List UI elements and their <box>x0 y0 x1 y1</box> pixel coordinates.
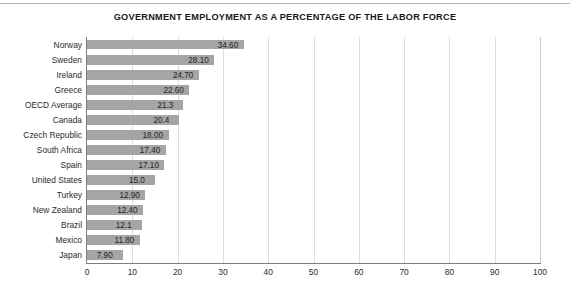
chart-page: GOVERNMENT EMPLOYMENT AS A PERCENTAGE OF… <box>0 0 570 291</box>
bar-value-label: 12.90 <box>119 191 140 200</box>
bar-row: Brazil12.1 <box>87 220 540 230</box>
bar-value-label: 18.00 <box>143 130 164 139</box>
x-tick-label: 20 <box>173 267 182 277</box>
bar-value-label: 17.10 <box>138 161 159 170</box>
bar-value-label: 15.0 <box>129 176 145 185</box>
bar-row: Norway34.60 <box>87 40 540 50</box>
chart-title: GOVERNMENT EMPLOYMENT AS A PERCENTAGE OF… <box>0 12 570 22</box>
bar-value-label: 22.60 <box>163 85 184 94</box>
category-label: Czech Republic <box>23 130 82 140</box>
bar-value-label: 11.80 <box>114 236 134 245</box>
category-label: Mexico <box>55 235 82 245</box>
plot-area: Norway34.60Sweden28.10Ireland24.70Greece… <box>87 37 540 263</box>
bar-row: United States15.0 <box>87 175 540 185</box>
gridline <box>540 37 541 263</box>
bar-value-label: 24.70 <box>173 70 194 79</box>
bar-row: Spain17.10 <box>87 160 540 170</box>
bar-row: Sweden28.10 <box>87 55 540 65</box>
category-label: Greece <box>55 85 82 95</box>
bar-value-label: 12.40 <box>117 206 138 215</box>
x-tick-label: 0 <box>85 267 90 277</box>
category-label: Canada <box>53 115 82 125</box>
bar-row: Canada20.4 <box>87 115 540 125</box>
bar-row: Japan7.90 <box>87 250 540 260</box>
category-label: Brazil <box>61 220 82 230</box>
x-tick-label: 10 <box>128 267 137 277</box>
x-tick-label: 60 <box>354 267 363 277</box>
category-label: Japan <box>59 250 82 260</box>
category-label: Spain <box>61 160 82 170</box>
bar-row: New Zealand12.40 <box>87 205 540 215</box>
x-tick-label: 50 <box>309 267 318 277</box>
bar-value-label: 7.90 <box>97 251 113 260</box>
category-label: Norway <box>54 40 82 50</box>
x-axis-line <box>86 263 541 264</box>
category-label: United States <box>32 175 82 185</box>
category-label: Ireland <box>56 70 82 80</box>
bar-value-label: 21.3 <box>157 100 173 109</box>
x-tick-label: 30 <box>218 267 227 277</box>
bar-row: OECD Average21.3 <box>87 100 540 110</box>
page-top-rule <box>0 3 570 4</box>
category-label: South Africa <box>37 145 82 155</box>
x-tick-label: 80 <box>445 267 454 277</box>
bar-row: Greece22.60 <box>87 85 540 95</box>
bar-value-label: 34.60 <box>218 40 239 49</box>
bar[interactable] <box>87 220 142 230</box>
category-label: Sweden <box>52 55 82 65</box>
x-tick-label: 100 <box>533 267 547 277</box>
x-tick-label: 40 <box>264 267 273 277</box>
category-label: OECD Average <box>25 100 82 110</box>
bar-value-label: 17.40 <box>140 145 161 154</box>
bar-value-label: 20.4 <box>153 115 169 124</box>
x-tick-label: 90 <box>490 267 499 277</box>
bar-row: Ireland24.70 <box>87 70 540 80</box>
category-label: Turkey <box>57 190 82 200</box>
bar-row: Turkey12.90 <box>87 190 540 200</box>
category-label: New Zealand <box>33 205 82 215</box>
x-tick-label: 70 <box>399 267 408 277</box>
bar-value-label: 12.1 <box>116 221 132 230</box>
bar-row: Czech Republic18.00 <box>87 130 540 140</box>
bar-row: South Africa17.40 <box>87 145 540 155</box>
bar-value-label: 28.10 <box>188 55 209 64</box>
bar-row: Mexico11.80 <box>87 235 540 245</box>
